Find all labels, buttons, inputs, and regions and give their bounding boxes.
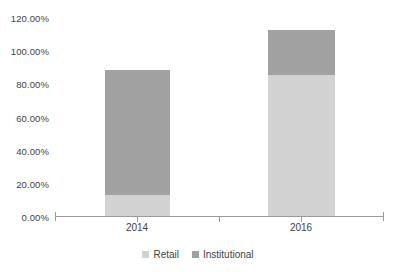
plot-area [55, 18, 383, 217]
y-axis-label-40: 40.00% [16, 146, 49, 157]
y-axis-label-0: 0.00% [22, 212, 49, 223]
chart-legend: Retail Institutional [0, 249, 396, 260]
legend-label-retail: Retail [153, 249, 179, 260]
y-axis-label-60: 60.00% [16, 113, 49, 124]
legend-item-retail: Retail [142, 249, 179, 260]
bar-segment-2014-institutional [105, 70, 170, 196]
legend-item-institutional: Institutional [192, 249, 254, 260]
y-axis-label-100: 100.00% [11, 46, 49, 57]
bar-2014 [105, 70, 170, 217]
bar-segment-2014-retail [105, 195, 170, 217]
bar-segment-2016-institutional [268, 30, 335, 75]
legend-swatch-institutional-icon [192, 251, 199, 258]
y-axis-label-120: 120.00% [11, 13, 49, 24]
y-axis-label-80: 80.00% [16, 79, 49, 90]
x-axis-label-2014: 2014 [126, 222, 148, 233]
stacked-bar-chart: 120.00% 100.00% 80.00% 60.00% 40.00% 20.… [0, 0, 396, 272]
bar-segment-2016-retail [268, 75, 335, 217]
legend-swatch-retail-icon [142, 251, 149, 258]
y-axis-label-20: 20.00% [16, 179, 49, 190]
legend-label-institutional: Institutional [203, 249, 254, 260]
x-axis-start-cap [55, 212, 56, 221]
bar-2016 [268, 30, 335, 217]
x-axis-tick-divider [219, 217, 220, 222]
x-axis-end-cap [383, 212, 384, 221]
x-axis-label-2016: 2016 [290, 222, 312, 233]
